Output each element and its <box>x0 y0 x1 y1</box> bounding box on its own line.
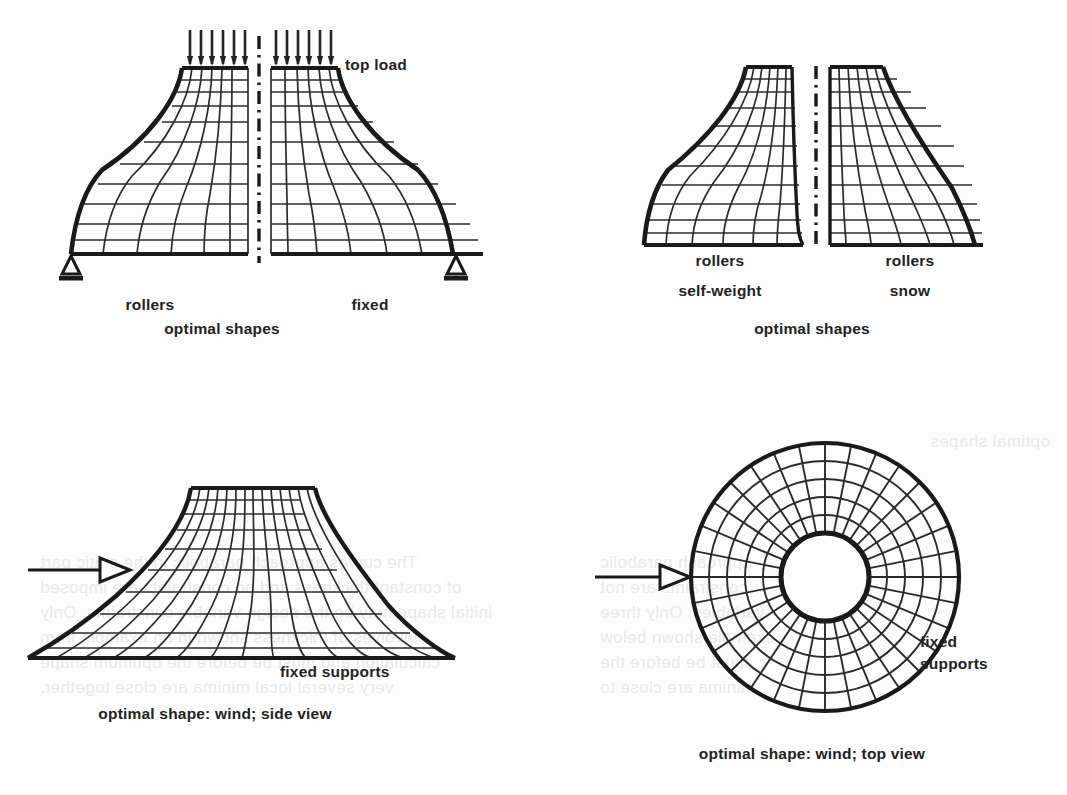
caption-figure-bottom-left: optimal shape: wind; side view <box>98 705 331 723</box>
outline-inner-circle <box>781 533 869 621</box>
caption-figure-bottom-right: optimal shape: wind; top view <box>699 745 925 763</box>
fem-mesh-right-meridians <box>271 68 453 254</box>
top-load-arrows-left <box>187 30 248 66</box>
figure-optimal-shape-wind-side-view: fixed supports <box>20 470 490 690</box>
structure-snow <box>830 67 983 245</box>
fem-mesh-snow-rings <box>830 67 983 245</box>
scanned-page: optimal shapesThe curves approach parabo… <box>0 0 1067 795</box>
label-support-rollers-left: rollers <box>126 296 175 314</box>
figure-optimal-shape-wind-top-view: fixed supports <box>590 455 1010 745</box>
label-support-rollers-self-weight: rollers <box>696 252 745 270</box>
structure-left-half-rollers <box>59 30 248 281</box>
label-fixed-supports-top-line2: supports <box>920 655 988 673</box>
fem-mesh-left-meridians <box>71 68 248 254</box>
label-load-self-weight: self-weight <box>678 282 761 300</box>
caption-figure-top-left: optimal shapes <box>164 320 280 338</box>
label-top-load: top load <box>345 56 407 74</box>
bleed-through-line: optimal shapes <box>930 432 1050 452</box>
label-fixed-supports-top-line1: fixed <box>920 633 957 651</box>
wind-direction-arrow-side <box>28 558 130 582</box>
outline-self-weight-inner <box>792 67 803 245</box>
fem-mesh-self-weight-meridians <box>644 67 803 245</box>
top-load-arrows-right <box>273 30 334 66</box>
figure-optimal-shapes-top-load: top load rollers fixed <box>40 18 510 318</box>
outline-snow-profile <box>883 67 975 245</box>
label-support-rollers-snow: rollers <box>886 252 935 270</box>
fixed-support-symbol-right <box>444 256 468 281</box>
structure-self-weight <box>644 67 803 245</box>
label-load-snow: snow <box>890 282 930 300</box>
fem-mesh-snow-meridians <box>830 67 975 245</box>
fem-mesh-tower-rings <box>28 488 455 658</box>
outline-left-profile <box>71 68 182 254</box>
fem-mesh-annulus <box>691 443 959 711</box>
caption-figure-top-right: optimal shapes <box>754 320 870 338</box>
wind-direction-arrow-top <box>595 565 690 589</box>
outline-right-profile <box>338 68 453 254</box>
label-fixed-supports-side: fixed supports <box>280 663 390 681</box>
figure-optimal-shapes-self-weight-snow: rollers rollers self-weight snow <box>620 42 1020 302</box>
roller-support-symbol-left <box>59 256 83 281</box>
fem-mesh-right <box>271 68 483 254</box>
label-support-fixed-right: fixed <box>351 296 388 314</box>
outline-self-weight-profile <box>644 67 746 245</box>
